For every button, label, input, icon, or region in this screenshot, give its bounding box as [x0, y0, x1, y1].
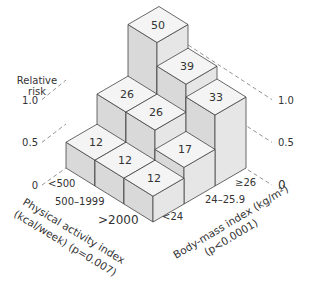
bar-value-label: 33	[209, 91, 223, 104]
bar-value-label: 17	[178, 143, 192, 156]
z-tick-right: 1.0	[278, 95, 294, 106]
bmi-category-label: 24–25.9	[205, 194, 245, 205]
z-gridline	[42, 124, 66, 142]
bar-value-label: 12	[118, 154, 132, 167]
activity-category-label: <500	[48, 178, 75, 189]
z-tick-left: 0	[32, 180, 38, 191]
z-axis-title-line2: risk	[28, 86, 46, 97]
bar-value-label: 26	[120, 88, 134, 101]
bar-value-label: 26	[149, 106, 163, 119]
bar-value-label: 12	[89, 136, 103, 149]
bmi-category-label: <24	[162, 211, 183, 222]
bar-value-label: 50	[151, 19, 165, 32]
bar-value-label: 39	[180, 60, 194, 73]
activity-category-label: 500–1999	[55, 196, 105, 207]
relative-risk-3d-bar-chart: 502639122633121712 Relative 000.50.51.01…	[0, 0, 310, 281]
z-tick-right: 0.5	[278, 137, 294, 148]
z-tick-left: 0.5	[22, 137, 38, 148]
bars: 502639122633121712	[66, 7, 246, 223]
activity-category-label: >2000	[98, 213, 139, 227]
bmi-category-label: ≥26	[235, 177, 256, 188]
z-axis-title: Relative	[17, 75, 57, 86]
bar-value-label: 12	[147, 172, 161, 185]
